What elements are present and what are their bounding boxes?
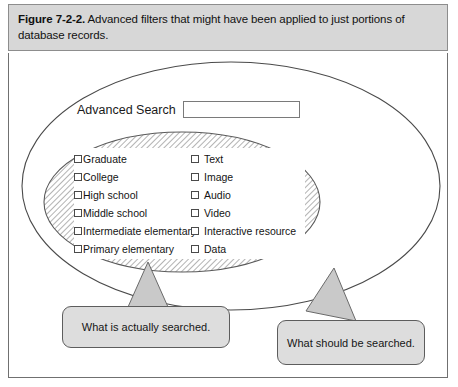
filter-label: Intermediate elementary <box>83 225 196 237</box>
callout-actually-searched-text: What is actually searched. <box>82 320 210 334</box>
checkbox-icon[interactable] <box>191 191 199 199</box>
figure-caption-label: Figure 7-2-2. <box>18 13 85 25</box>
callout-should-be-searched: What should be searched. <box>277 320 425 365</box>
checkbox-icon[interactable] <box>74 245 82 253</box>
callout-should-be-searched-text: What should be searched. <box>287 336 415 350</box>
checkbox-icon[interactable] <box>74 227 82 235</box>
filter-label: Image <box>204 171 233 183</box>
figure-container: Figure 7-2-2. Advanced filters that migh… <box>0 0 458 387</box>
filter-label: Text <box>204 153 223 165</box>
filter-label: Primary elementary <box>83 243 174 255</box>
filter-item-primary-elementary[interactable]: Primary elementary <box>74 240 191 258</box>
figure-caption-text: Figure 7-2-2. Advanced filters that migh… <box>18 11 438 43</box>
callout-actually-searched: What is actually searched. <box>62 306 230 348</box>
filter-item-middle-school[interactable]: Middle school <box>74 204 191 222</box>
filter-label: Audio <box>204 189 231 201</box>
filter-label: College <box>83 171 119 183</box>
checkbox-icon[interactable] <box>74 173 82 181</box>
filter-item-audio[interactable]: Audio <box>191 186 305 204</box>
filter-item-image[interactable]: Image <box>191 168 305 186</box>
filter-item-college[interactable]: College <box>74 168 191 186</box>
advanced-search-input[interactable] <box>183 101 300 118</box>
filter-label: Interactive resource <box>204 225 296 237</box>
filter-label: Graduate <box>83 153 127 165</box>
advanced-filter-checkbox-panel: Graduate College High school Middle scho… <box>74 150 305 259</box>
filter-label: Data <box>204 243 226 255</box>
filter-label: High school <box>83 189 138 201</box>
resource-type-filter-column: Text Image Audio Video Interactive resou… <box>191 150 305 259</box>
education-level-filter-column: Graduate College High school Middle scho… <box>74 150 191 259</box>
checkbox-icon[interactable] <box>74 209 82 217</box>
filter-item-interactive-resource[interactable]: Interactive resource <box>191 222 305 240</box>
checkbox-icon[interactable] <box>191 209 199 217</box>
checkbox-icon[interactable] <box>74 191 82 199</box>
filter-item-data[interactable]: Data <box>191 240 305 258</box>
checkbox-icon[interactable] <box>191 227 199 235</box>
filter-item-text[interactable]: Text <box>191 150 305 168</box>
advanced-search-row: Advanced Search <box>77 101 300 118</box>
filter-item-intermediate-elementary[interactable]: Intermediate elementary <box>74 222 191 240</box>
checkbox-icon[interactable] <box>191 155 199 163</box>
filter-item-high-school[interactable]: High school <box>74 186 191 204</box>
filter-label: Middle school <box>83 207 147 219</box>
figure-caption-band: Figure 7-2-2. Advanced filters that migh… <box>8 4 448 51</box>
filter-label: Video <box>204 207 231 219</box>
checkbox-icon[interactable] <box>191 245 199 253</box>
advanced-search-label: Advanced Search <box>77 103 176 117</box>
filter-item-video[interactable]: Video <box>191 204 305 222</box>
checkbox-icon[interactable] <box>191 173 199 181</box>
filter-item-graduate[interactable]: Graduate <box>74 150 191 168</box>
checkbox-icon[interactable] <box>74 155 82 163</box>
